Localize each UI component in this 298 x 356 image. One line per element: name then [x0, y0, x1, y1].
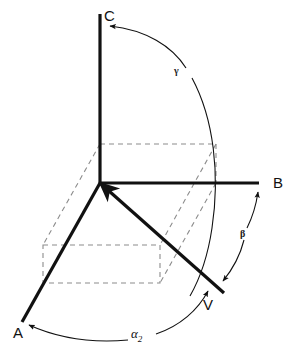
diagram-svg: C B A V γ β α2 [0, 0, 298, 356]
vector-v-line [100, 183, 224, 293]
axis-label-b: B [273, 174, 283, 191]
angle-gamma-arc-upper [110, 26, 186, 68]
vector-v-group [100, 183, 224, 293]
angle-label-beta: β [240, 228, 245, 239]
angle-beta-arc-lower [223, 240, 244, 281]
box-edge-right-slant-upper [160, 144, 216, 245]
axis-a-line [22, 183, 100, 322]
coordinate-axes [22, 14, 259, 322]
angle-gamma-arc-lower [190, 78, 215, 296]
axis-label-a: A [13, 324, 23, 341]
angle-alpha2-arc-right [156, 291, 208, 334]
vector-label-v: V [203, 296, 213, 313]
figure-canvas: C B A V γ β α2 [0, 0, 298, 356]
box-edge-left-slant-upper [43, 144, 100, 245]
angle-label-alpha2: α2 [131, 326, 143, 344]
angle-label-gamma: γ [173, 65, 179, 76]
angle-beta-arc-upper [247, 192, 258, 228]
box-edge-right-slant-lower [160, 183, 216, 283]
angle-label-alpha2-subscript: 2 [138, 334, 143, 344]
angle-alpha2-arc-left [29, 325, 128, 341]
axis-label-c: C [104, 7, 115, 24]
